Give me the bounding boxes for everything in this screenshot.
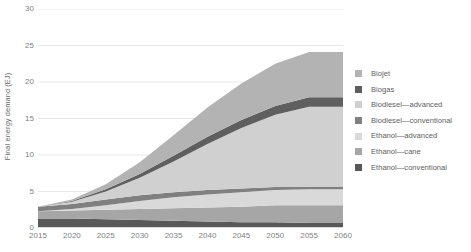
x-tick-label: 2035 — [165, 232, 183, 240]
legend-item[interactable]: Ethanol—advanced — [355, 128, 471, 144]
y-tick-label: 5 — [4, 188, 34, 196]
legend-swatch-icon — [355, 70, 362, 77]
legend-item-label: Ethanol—conventional — [371, 164, 447, 172]
x-tick-label: 2015 — [29, 232, 47, 240]
x-tick-label: 2030 — [131, 232, 149, 240]
legend-item[interactable]: Ethanol—cane — [355, 144, 471, 160]
x-tick-label: 2050 — [266, 232, 284, 240]
legend-swatch-icon — [355, 117, 362, 124]
legend-swatch-icon — [355, 148, 362, 155]
legend-item[interactable]: Biojet — [355, 66, 471, 82]
x-tick-label: 2040 — [199, 232, 217, 240]
legend-item[interactable]: Biogas — [355, 82, 471, 98]
legend-swatch-icon — [355, 101, 362, 108]
x-tick-label: 2045 — [232, 232, 250, 240]
chart-legend: BiojetBiogasBiodiesel—advancedBiodiesel—… — [355, 66, 471, 175]
y-tick-label: 10 — [4, 151, 34, 159]
y-tick-label: 25 — [4, 42, 34, 50]
x-tick-label: 2060 — [334, 232, 352, 240]
legend-item-label: Ethanol—advanced — [371, 132, 437, 140]
x-tick-label: 2020 — [63, 232, 81, 240]
legend-swatch-icon — [355, 164, 362, 171]
stacked-area-plot — [38, 9, 343, 228]
legend-item[interactable]: Biodiesel—advanced — [355, 97, 471, 113]
chart-container: Final energy demand (EJ) 051015202530 20… — [0, 0, 471, 252]
legend-item[interactable]: Ethanol—conventional — [355, 160, 471, 176]
y-tick-label: 20 — [4, 78, 34, 86]
legend-item-label: Biodiesel—conventional — [371, 117, 452, 125]
legend-item-label: Biogas — [371, 86, 394, 94]
legend-item-label: Biodiesel—advanced — [371, 101, 442, 109]
x-axis-tick-labels: 2015202020252030203520402045205020552060 — [38, 232, 343, 248]
legend-swatch-icon — [355, 133, 362, 140]
legend-swatch-icon — [355, 86, 362, 93]
x-tick-label: 2025 — [97, 232, 115, 240]
x-tick-label: 2055 — [300, 232, 318, 240]
legend-item-label: Ethanol—cane — [371, 148, 421, 156]
plot-area — [38, 9, 343, 228]
y-tick-label: 30 — [4, 5, 34, 13]
legend-item[interactable]: Biodiesel—conventional — [355, 113, 471, 129]
legend-item-label: Biojet — [371, 70, 390, 78]
y-axis-tick-labels: 051015202530 — [0, 0, 34, 252]
y-tick-label: 15 — [4, 115, 34, 123]
